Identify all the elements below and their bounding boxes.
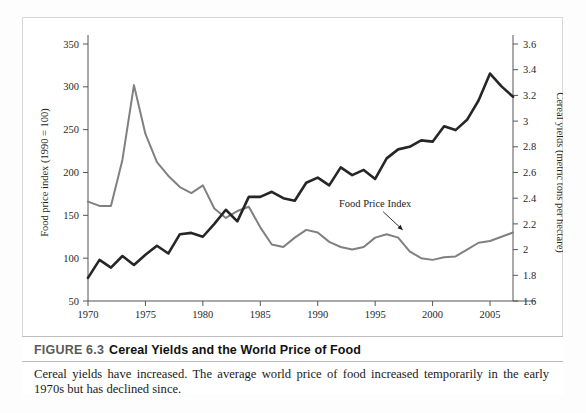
right-axis-tick-label: 2.6 <box>523 167 536 178</box>
right-axis-tick-label: 3 <box>523 116 528 127</box>
right-axis-tick-label: 2.8 <box>523 141 536 152</box>
left-axis-tick-label: 200 <box>63 167 79 178</box>
x-axis-tick-label: 1995 <box>365 309 386 320</box>
series-group <box>88 74 513 278</box>
right-axis-tick-label: 3.4 <box>523 64 537 75</box>
figure-title: Cereal Yields and the World Price of Foo… <box>109 343 361 357</box>
page-background: 501001502002503003501.61.822.22.42.62.83… <box>0 0 586 413</box>
x-axis-tick-label: 2005 <box>480 309 501 320</box>
left-axis-tick-label: 300 <box>63 81 79 92</box>
left-axis-title: Food price index (1990 = 100) <box>39 108 51 237</box>
series-line-food-price-index <box>88 85 513 260</box>
series-annotation-label: Food Price Index <box>339 198 412 209</box>
axis-titles-group: Food price index (1990 = 100)Cereal yiel… <box>39 92 563 253</box>
series-line-cereal-yield <box>88 74 513 278</box>
x-axis-tick-label: 1985 <box>250 309 271 320</box>
annotations-group: Cereal YieldFood Price Index <box>271 17 412 230</box>
right-axis-tick-label: 1.8 <box>523 270 536 281</box>
left-axis-tick-label: 150 <box>63 210 79 221</box>
figure-caption-block: FIGURE 6.3Cereal Yields and the World Pr… <box>22 336 563 395</box>
left-axis-tick-label: 250 <box>63 124 79 135</box>
right-axis-tick-label: 1.6 <box>523 296 536 307</box>
axes-group: 501001502002503003501.61.822.22.42.62.83… <box>63 35 537 320</box>
right-axis-tick-label: 3.6 <box>523 39 536 50</box>
x-axis-tick-label: 1970 <box>78 309 99 320</box>
left-axis-tick-label: 350 <box>63 39 79 50</box>
right-axis-tick-label: 2.2 <box>523 219 536 230</box>
right-axis-tick-label: 2 <box>523 244 528 255</box>
figure-number: FIGURE 6.3 <box>34 343 104 357</box>
left-axis-tick-label: 50 <box>69 296 80 307</box>
figure-caption-text: Cereal yields have increased. The averag… <box>22 362 563 397</box>
x-axis-tick-label: 1990 <box>307 309 328 320</box>
right-axis-title: Cereal yields (metric tons per hectare) <box>554 92 563 253</box>
chart-plot-area: 501001502002503003501.61.822.22.42.62.83… <box>22 17 563 335</box>
x-axis-tick-label: 2000 <box>422 309 443 320</box>
figure-title-row: FIGURE 6.3Cereal Yields and the World Pr… <box>22 337 563 362</box>
cereal-yields-food-price-chart: 501001502002503003501.61.822.22.42.62.83… <box>22 17 563 335</box>
x-axis-tick-label: 1975 <box>135 309 156 320</box>
x-axis-tick-label: 1980 <box>192 309 213 320</box>
right-axis-tick-label: 3.2 <box>523 90 536 101</box>
right-axis-tick-label: 2.4 <box>523 193 537 204</box>
left-axis-tick-label: 100 <box>63 253 79 264</box>
